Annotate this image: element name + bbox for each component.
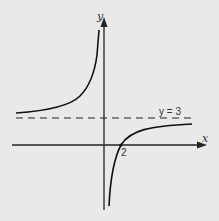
- asymptote-label: y = 3: [159, 107, 181, 117]
- x-intercept-label: 2: [121, 148, 127, 158]
- y-axis-label: y: [97, 11, 103, 22]
- curve-branch-right: [109, 124, 192, 206]
- hyperbola-diagram: y x y = 3 2: [0, 0, 219, 221]
- x-axis-label: x: [202, 133, 208, 144]
- curve-branch-left: [16, 30, 99, 113]
- graph-canvas: [0, 0, 219, 221]
